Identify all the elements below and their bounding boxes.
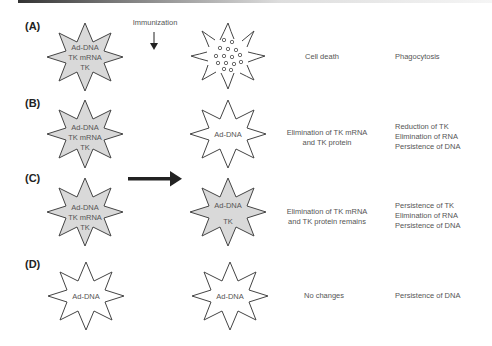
- transition-arrow-icon: [128, 171, 182, 187]
- cell-b-after-text: Ad-DNA: [214, 130, 242, 140]
- result-b: Reduction of TK Elimination of RNA Persi…: [395, 122, 460, 152]
- cell-b-before-text: Ad-DNA TK mRNA TK: [68, 123, 102, 153]
- outcome-d: No changes: [304, 291, 344, 301]
- outcome-a: Cell death: [305, 52, 339, 62]
- outcome-c: Elimination of TK mRNA and TK protein re…: [287, 207, 368, 227]
- cell-a-dead-icon: [191, 23, 265, 89]
- outcome-b: Elimination of TK mRNA and TK protein: [287, 128, 368, 148]
- result-d: Persistence of DNA: [395, 291, 460, 301]
- cell-a-before-text: Ad-DNA TK mRNA TK: [68, 43, 102, 73]
- cell-d-before-text: Ad-DNA: [72, 292, 100, 302]
- result-a: Phagocytosis: [395, 52, 440, 62]
- cell-c-before-text: Ad-DNA TK mRNA TK: [68, 203, 102, 233]
- result-c: Persistence of TK Elimination of RNA Per…: [395, 201, 460, 231]
- cell-d-after-text: Ad-DNA: [216, 292, 244, 302]
- immunization-arrow-icon: [150, 32, 158, 50]
- cell-c-after-text: Ad-DNA TK: [214, 201, 242, 227]
